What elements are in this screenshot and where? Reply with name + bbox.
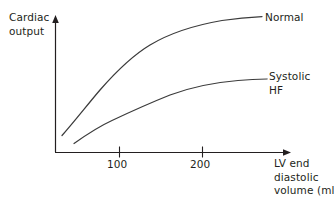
x-axis-title-line3: volume (ml) [274,184,334,198]
curve-systolic-hf [74,79,267,144]
x-axis-arrow-icon [283,149,291,156]
x-axis-title-line1: LV end [274,157,334,171]
curve-normal [62,17,262,136]
series-label-normal-text: Normal [265,11,304,25]
y-axis-title: Cardiac output [9,11,55,38]
series-label-systolic-hf: Systolic HF [269,70,310,97]
series-label-systolic-line1: Systolic [269,70,310,84]
x-axis-title-line2: diastolic [274,171,334,185]
y-axis-title-line1: Cardiac [9,11,55,25]
cardiac-output-frank-starling-chart: Cardiac output Normal Systolic HF 100 20… [0,0,334,207]
series-label-systolic-line2: HF [269,84,310,98]
x-axis-title: LV end diastolic volume (ml) [274,157,334,198]
series-label-normal: Normal [265,11,304,25]
y-axis-title-line2: output [9,25,55,39]
x-tick-label-200: 200 [190,158,210,172]
x-tick-label-100: 100 [107,158,127,172]
